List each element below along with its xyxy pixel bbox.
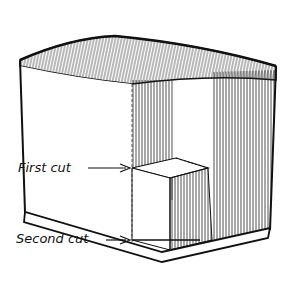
right-face (212, 70, 276, 240)
cube-illustration: First cut Second cut (0, 0, 288, 285)
cut-block-front (132, 168, 170, 250)
cut-block-side (170, 168, 212, 250)
second-cut-label: Second cut (16, 231, 89, 246)
first-cut-label: First cut (18, 160, 72, 175)
